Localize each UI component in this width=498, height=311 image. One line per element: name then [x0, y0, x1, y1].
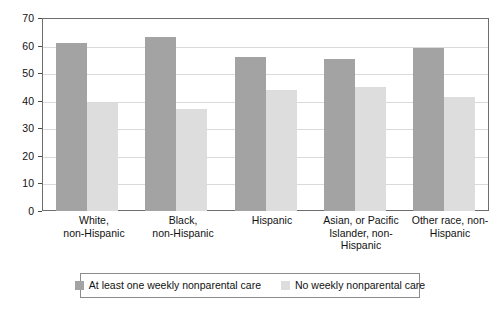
y-axis: 70 60 50 40 30 20 10 0 [0, 18, 42, 211]
legend-swatch-icon [75, 281, 84, 290]
bars-layer [42, 18, 489, 211]
bar-blacknonhispanic-at-least-one-weekly-nonparental-care [145, 37, 176, 211]
x-label-line: non-Hispanic [123, 227, 243, 240]
y-tick-label-20: 20 [0, 151, 34, 161]
y-tick-label-60: 60 [0, 41, 34, 51]
x-label-line: Hispanic [390, 227, 498, 240]
bar-whitenonhispanic-no-weekly-nonparental-care [87, 103, 118, 211]
x-label-other-race-non-hispanic: Other race, non- Hispanic [390, 214, 498, 239]
legend-swatch-icon [281, 281, 290, 290]
x-label-line: Other race, non- [390, 214, 498, 227]
legend-label: No weekly nonparental care [295, 280, 425, 291]
bar-asian-or-pacificislander-nonhispanic-no-weekly-nonparental-care [355, 87, 386, 211]
y-tick-mark [38, 211, 42, 212]
bar-blacknonhispanic-no-weekly-nonparental-care [176, 109, 207, 211]
legend-label: At least one weekly nonparental care [89, 280, 261, 291]
y-tick-label-10: 10 [0, 178, 34, 188]
bar-other-race-nonhispanic-no-weekly-nonparental-care [444, 97, 475, 211]
bar-other-race-nonhispanic-at-least-one-weekly-nonparental-care [413, 48, 444, 211]
bar-hispanic-no-weekly-nonparental-care [266, 90, 297, 211]
x-axis-labels: White, non-Hispanic Black, non-Hispanic … [42, 214, 489, 264]
legend-item-no-weekly-nonparental-care: No weekly nonparental care [281, 280, 425, 291]
bar-asian-or-pacificislander-nonhispanic-at-least-one-weekly-nonparental-care [324, 59, 355, 211]
bar-whitenonhispanic-at-least-one-weekly-nonparental-care [56, 43, 87, 211]
legend-item-at-least-one-weekly-nonparental-care: At least one weekly nonparental care [75, 280, 261, 291]
bar-hispanic-at-least-one-weekly-nonparental-care [235, 57, 266, 211]
y-tick-label-40: 40 [0, 96, 34, 106]
y-tick-label-30: 30 [0, 123, 34, 133]
legend: At least one weekly nonparental care No … [80, 273, 420, 298]
y-tick-label-50: 50 [0, 68, 34, 78]
bar-chart: 70 60 50 40 30 20 10 0 White, non-Hispan… [0, 0, 498, 311]
x-label-line: Hispanic [301, 239, 421, 252]
y-tick-label-0: 0 [0, 206, 34, 216]
y-tick-label-70: 70 [0, 13, 34, 23]
